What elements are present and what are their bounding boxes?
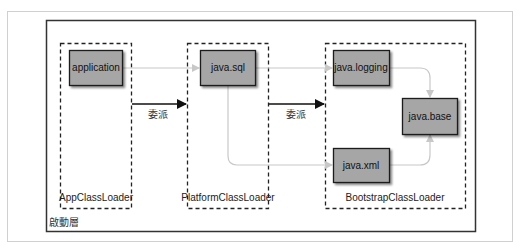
loader-label-bootstrap: BootstrapClassLoader: [346, 192, 446, 203]
class-loader-diagram: 啟動層 AppClassLoader PlatformClassLoader B…: [0, 0, 523, 249]
loader-label-platform: PlatformClassLoader: [181, 192, 275, 203]
module-java-logging: java.logging: [333, 51, 389, 86]
boot-layer-label: 啟動層: [49, 216, 79, 228]
module-java-base: java.base: [403, 99, 458, 135]
module-label-java-logging: java.logging: [333, 62, 387, 73]
module-label-java-xml: java.xml: [342, 160, 380, 171]
module-java-sql: java.sql: [201, 51, 256, 86]
loader-label-app: AppClassLoader: [59, 192, 134, 203]
module-label-java-sql: java.sql: [210, 62, 245, 73]
module-application: application: [70, 51, 123, 86]
delegation-label-2: 委派: [286, 108, 306, 120]
delegation-label-1: 委派: [148, 108, 168, 120]
module-label-java-base: java.base: [408, 111, 452, 122]
module-label-application: application: [72, 62, 120, 73]
module-java-xml: java.xml: [334, 149, 390, 183]
